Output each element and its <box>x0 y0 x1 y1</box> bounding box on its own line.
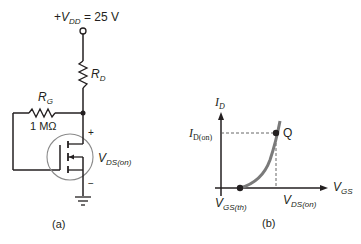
rg-value: 1 MΩ <box>30 120 57 132</box>
q-label: Q <box>283 126 292 140</box>
supply-label: +VDD = 25 V <box>54 10 119 26</box>
supply-terminal <box>80 28 86 34</box>
resistor-rd <box>79 61 87 88</box>
vgs-th-label: VGS(th) <box>215 196 247 212</box>
ground-icon <box>75 197 91 205</box>
rg-label: RG <box>38 90 53 106</box>
plus-sign: + <box>88 127 94 138</box>
id-on-label: ID(on) <box>188 126 212 142</box>
caption-b: (b) <box>262 217 275 229</box>
vds-on-label: VDS(on) <box>98 151 132 167</box>
y-axis-label: ID <box>214 95 225 111</box>
minus-sign: − <box>88 178 94 189</box>
x-axis-label: VGS <box>333 180 353 196</box>
vds-on-axis-label: VDS(on) <box>283 193 317 209</box>
threshold-point <box>237 185 243 191</box>
resistor-rg <box>29 109 55 117</box>
figure-a-circuit: +VDD = 25 V RD RG 1 MΩ <box>13 10 132 230</box>
figure-b-graph: ID ID(on) Q VGS VGS(th) VDS(on) (b) <box>188 95 353 229</box>
caption-a: (a) <box>52 218 65 230</box>
body-arrow-icon <box>69 155 74 160</box>
q-point <box>273 130 279 136</box>
x-axis-arrow-icon <box>320 185 328 191</box>
circuit-figure: +VDD = 25 V RD RG 1 MΩ <box>0 0 361 244</box>
rd-label: RD <box>91 67 106 83</box>
y-axis-arrow-icon <box>218 112 224 120</box>
